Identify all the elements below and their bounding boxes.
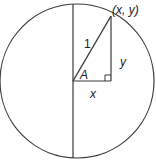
angle-label: A: [79, 68, 88, 82]
right-angle-marker: [105, 75, 111, 81]
point-label: (x, y): [112, 3, 139, 17]
unit-circle-diagram: (x, y) 1 y A x: [0, 0, 156, 163]
hypotenuse-radius: [73, 16, 111, 81]
hypotenuse-label: 1: [84, 37, 91, 51]
vertical-leg-label: y: [119, 55, 127, 69]
horizontal-leg-label: x: [89, 87, 97, 101]
